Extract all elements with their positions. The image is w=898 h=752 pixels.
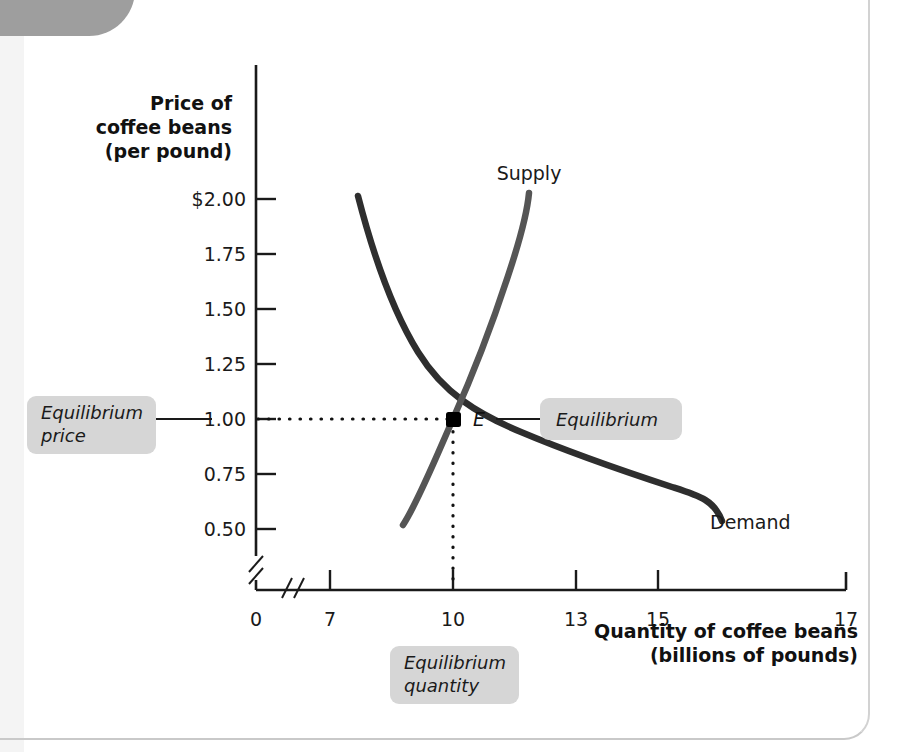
equilibrium-quantity-callout-line-1: quantity (404, 675, 479, 696)
y-axis-title: Price of coffee beans (per pound) (96, 92, 233, 162)
y-axis-title-line-0: Price of (150, 92, 233, 114)
x-axis-break-mark-2 (294, 578, 304, 598)
demand-curve (358, 196, 722, 521)
equilibrium-point-callout-text: Equilibrium (556, 409, 658, 430)
x-tick-label-0: 0 (250, 608, 262, 630)
x-axis-title-line-0: Quantity of coffee beans (594, 620, 858, 642)
equilibrium-point-marker (446, 412, 461, 427)
y-tick-label-0: $2.00 (192, 188, 246, 210)
supply-demand-chart: $2.00 1.75 1.50 1.25 1.00 0.75 0.50 0 7 … (0, 0, 898, 752)
equilibrium-point-letter: E (473, 408, 485, 430)
y-axis-title-line-2: (per pound) (105, 140, 232, 162)
y-tick-label-1: 1.75 (204, 243, 246, 265)
x-axis-title: Quantity of coffee beans (billions of po… (594, 620, 858, 666)
y-axis-title-line-1: coffee beans (96, 116, 232, 138)
demand-curve-label: Demand (710, 511, 791, 533)
x-tick-label-2: 10 (441, 608, 465, 630)
x-tick-label-3: 13 (564, 608, 588, 630)
x-tick-label-1: 7 (324, 608, 336, 630)
x-axis-title-line-1: (billions of pounds) (650, 644, 858, 666)
y-tick-label-2: 1.50 (204, 298, 246, 320)
y-tick-label-5: 0.75 (204, 463, 246, 485)
y-axis-ticks (256, 199, 276, 529)
x-axis-break-mark-1 (282, 578, 292, 598)
supply-curve-label: Supply (497, 162, 562, 184)
equilibrium-price-callout-line-0: Equilibrium (41, 402, 143, 423)
equilibrium-price-callout-line-1: price (40, 425, 86, 446)
y-tick-label-6: 0.50 (204, 518, 246, 540)
figure-root: $2.00 1.75 1.50 1.25 1.00 0.75 0.50 0 7 … (0, 0, 898, 752)
y-tick-label-3: 1.25 (204, 353, 246, 375)
x-axis-ticks (330, 570, 658, 590)
equilibrium-quantity-callout-line-0: Equilibrium (404, 652, 506, 673)
